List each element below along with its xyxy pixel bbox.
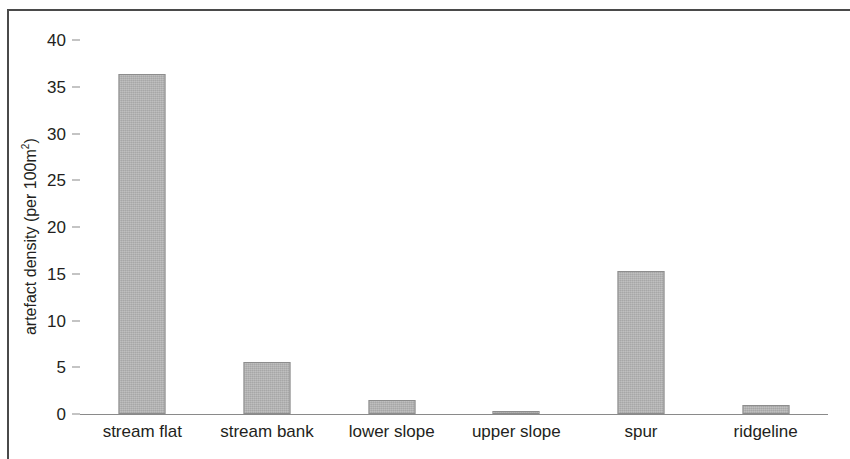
y-axis-tick-label: 0 bbox=[0, 406, 66, 423]
x-axis-category-label: spur bbox=[579, 422, 704, 442]
x-axis-category-label: stream flat bbox=[80, 422, 205, 442]
y-axis-tick-label: 15 bbox=[0, 265, 66, 282]
y-axis-tick-mark bbox=[72, 414, 80, 415]
y-axis-tick-label: 5 bbox=[0, 359, 66, 376]
x-axis-category-label: upper slope bbox=[454, 422, 579, 442]
y-axis-tick-label: 30 bbox=[0, 125, 66, 142]
y-axis-tick-mark bbox=[72, 180, 80, 181]
y-axis-tick-label: 10 bbox=[0, 312, 66, 329]
bar bbox=[617, 271, 664, 414]
bar bbox=[119, 74, 166, 414]
bar-slot bbox=[703, 40, 828, 414]
x-axis-category-label: ridgeline bbox=[703, 422, 828, 442]
bar-series bbox=[80, 40, 828, 414]
bar bbox=[368, 400, 415, 414]
y-axis-tick-mark bbox=[72, 40, 80, 41]
bar-slot bbox=[454, 40, 579, 414]
y-axis-tick-mark bbox=[72, 367, 80, 368]
x-axis-category-label: lower slope bbox=[329, 422, 454, 442]
x-axis-line bbox=[80, 414, 828, 415]
page-frame-top-rule bbox=[7, 9, 850, 11]
x-axis-category-label: stream bank bbox=[205, 422, 330, 442]
bar-slot bbox=[329, 40, 454, 414]
y-axis-tick-mark bbox=[72, 86, 80, 87]
bar bbox=[742, 405, 789, 414]
bar bbox=[243, 362, 290, 414]
y-axis-title-exponent: 2 bbox=[20, 144, 31, 150]
y-axis-tick-label: 35 bbox=[0, 78, 66, 95]
bar-slot bbox=[80, 40, 205, 414]
y-axis-tick-label: 20 bbox=[0, 219, 66, 236]
y-axis-tick-mark bbox=[72, 133, 80, 134]
bar-slot bbox=[579, 40, 704, 414]
y-axis-tick-label: 40 bbox=[0, 32, 66, 49]
bar-slot bbox=[205, 40, 330, 414]
y-axis-title: artefact density (per 100m2) bbox=[20, 37, 39, 437]
bar bbox=[493, 411, 540, 414]
y-axis-tick-mark bbox=[72, 273, 80, 274]
y-axis-tick-mark bbox=[72, 320, 80, 321]
y-axis-tick-mark bbox=[72, 227, 80, 228]
figure-bar-chart: artefact density (per 100m2) 05101520253… bbox=[0, 0, 850, 459]
x-axis-category-labels: stream flatstream banklower slopeupper s… bbox=[80, 422, 828, 456]
y-axis-tick-label: 25 bbox=[0, 172, 66, 189]
